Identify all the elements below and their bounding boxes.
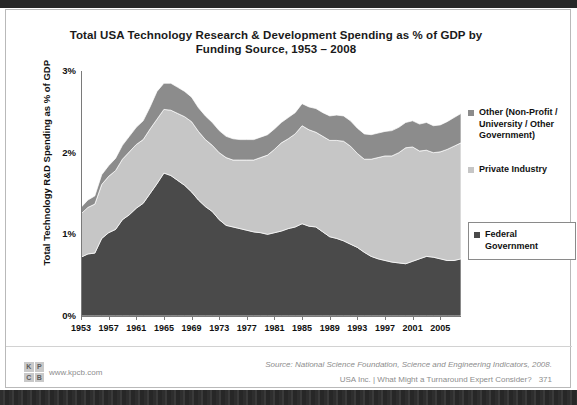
x-tick-mark	[247, 316, 248, 320]
x-tick-mark	[357, 316, 358, 320]
chart-legend: Other (Non-Profit / University / Other G…	[468, 107, 576, 260]
kpcb-logo-letter: P	[35, 362, 45, 372]
x-tick-label: 1965	[154, 323, 174, 333]
x-tick-mark	[302, 316, 303, 320]
kpcb-logo-letter: B	[35, 373, 45, 383]
y-tick-label: 1%	[46, 228, 76, 239]
slide-page: Total USA Technology Research & Developm…	[5, 9, 571, 388]
source-note: Source: National Science Foundation, Sci…	[265, 360, 552, 369]
x-tick-label: 1989	[320, 323, 340, 333]
x-tick-mark	[136, 316, 137, 320]
x-tick-mark	[219, 316, 220, 320]
x-tick-mark	[413, 316, 414, 320]
legend-item[interactable]: Federal Government	[468, 222, 576, 260]
legend-label: Federal Government	[485, 229, 570, 252]
x-tick-mark	[109, 316, 110, 320]
x-tick-label: 1997	[375, 323, 395, 333]
legend-swatch-icon	[474, 232, 480, 238]
footer-divider	[6, 346, 572, 347]
screenshot-root: Total USA Technology Research & Developm…	[0, 0, 577, 405]
kpcb-branding: KPCB www.kpcb.com	[24, 362, 102, 382]
x-tick-mark	[330, 316, 331, 320]
x-tick-mark	[440, 316, 441, 320]
x-tick-label: 1969	[182, 323, 202, 333]
x-tick-label: 2005	[430, 323, 450, 333]
kpcb-logo-letter: K	[24, 362, 34, 372]
slide-footer-text: USA Inc. | What Might a Turnaround Exper…	[340, 375, 532, 384]
slide-footer: USA Inc. | What Might a Turnaround Exper…	[340, 375, 552, 384]
x-tick-mark	[192, 316, 193, 320]
plot-area: 1953195719611965196919731977198119851989…	[81, 71, 461, 316]
x-tick-mark	[385, 316, 386, 320]
x-tick-label: 2001	[403, 323, 423, 333]
viewer-bottom-bar	[0, 390, 577, 405]
x-tick-mark	[164, 316, 165, 320]
x-tick-mark	[274, 316, 275, 320]
legend-item[interactable]: Other (Non-Profit / University / Other G…	[468, 107, 576, 142]
kpcb-url[interactable]: www.kpcb.com	[49, 368, 102, 377]
x-tick-label: 1961	[126, 323, 146, 333]
legend-label: Other (Non-Profit / University / Other G…	[479, 107, 576, 142]
legend-swatch-icon	[468, 110, 474, 116]
legend-item[interactable]: Private Industry	[468, 164, 576, 176]
legend-swatch-icon	[468, 167, 474, 173]
x-tick-label: 1973	[209, 323, 229, 333]
legend-label: Private Industry	[479, 164, 547, 176]
viewer-top-bar	[0, 0, 577, 8]
y-tick-label: 0%	[46, 310, 76, 321]
x-axis-line	[81, 316, 461, 317]
y-tick-label: 2%	[46, 147, 76, 158]
y-tick-label: 3%	[46, 65, 76, 76]
kpcb-logo-icon: KPCB	[24, 362, 44, 382]
stacked-area-chart	[81, 71, 461, 316]
x-tick-label: 1957	[99, 323, 119, 333]
slide-page-number: 371	[539, 375, 552, 384]
x-tick-label: 1981	[264, 323, 284, 333]
kpcb-logo-letter: C	[24, 373, 34, 383]
y-axis-ticks: 0%1%2%3%	[38, 10, 76, 340]
x-tick-label: 1993	[347, 323, 367, 333]
y-axis-line	[81, 71, 82, 317]
x-tick-label: 1953	[71, 323, 91, 333]
x-tick-label: 1985	[292, 323, 312, 333]
x-tick-mark	[81, 316, 82, 320]
x-tick-label: 1977	[237, 323, 257, 333]
